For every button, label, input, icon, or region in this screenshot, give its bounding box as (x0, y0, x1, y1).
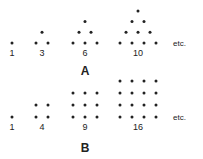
dot (47, 104, 50, 107)
dot (155, 80, 158, 83)
dot (84, 42, 87, 45)
dot (35, 42, 38, 45)
dot (131, 104, 134, 107)
dot (84, 104, 87, 107)
triangular-value-label: 3 (39, 48, 44, 58)
figure-b-label: B (81, 141, 90, 155)
figure-a-label: A (81, 64, 90, 78)
dot (84, 92, 87, 95)
dot (155, 42, 158, 45)
dot (72, 104, 75, 107)
dot (131, 80, 134, 83)
etc-label-a: etc. (173, 39, 186, 48)
dot (131, 20, 134, 23)
triangular-value-label: 10 (133, 48, 143, 58)
dot (90, 31, 93, 34)
dot (131, 92, 134, 95)
dot (137, 31, 140, 34)
dot (11, 42, 14, 45)
dot (119, 42, 122, 45)
triangular-value-label: 6 (82, 48, 87, 58)
dot (155, 116, 158, 119)
square-value-label: 9 (82, 122, 87, 132)
dot (35, 104, 38, 107)
dot (131, 116, 134, 119)
dot (41, 31, 44, 34)
figurate-numbers-diagram: 13610 14916 etc. etc. A B (0, 0, 203, 159)
dot (119, 104, 122, 107)
dot (72, 92, 75, 95)
dot (96, 92, 99, 95)
square-value-label: 4 (39, 122, 44, 132)
dot (131, 42, 134, 45)
dot (11, 116, 14, 119)
dot (96, 116, 99, 119)
square-value-label: 1 (9, 122, 14, 132)
dot (47, 42, 50, 45)
dot (35, 116, 38, 119)
dot (119, 92, 122, 95)
dot (78, 31, 81, 34)
dot (119, 116, 122, 119)
dot (119, 80, 122, 83)
square-value-label: 16 (133, 122, 143, 132)
dot (155, 104, 158, 107)
dot (143, 104, 146, 107)
etc-label-b: etc. (173, 113, 186, 122)
dot (143, 80, 146, 83)
dot (84, 116, 87, 119)
dot (72, 116, 75, 119)
dot (155, 92, 158, 95)
dot (96, 42, 99, 45)
dot (72, 42, 75, 45)
dot (47, 116, 50, 119)
dot (143, 92, 146, 95)
dot (149, 31, 152, 34)
square-numbers-group: 14916 (9, 80, 157, 133)
triangular-value-label: 1 (9, 48, 14, 58)
dot (143, 20, 146, 23)
dot (143, 42, 146, 45)
dot (137, 9, 140, 12)
triangular-numbers-group: 13610 (9, 9, 157, 58)
dot (96, 104, 99, 107)
dot (143, 116, 146, 119)
dot (125, 31, 128, 34)
dot (84, 20, 87, 23)
